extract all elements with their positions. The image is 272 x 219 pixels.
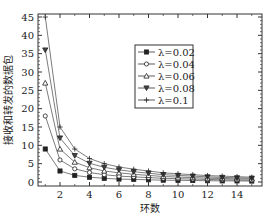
legend-label: λ=0.06 (158, 71, 195, 82)
x-tick-label: 10 (172, 189, 185, 200)
square-marker (58, 169, 62, 173)
triangle-up-marker (43, 80, 48, 85)
legend-label: λ=0.1 (158, 95, 189, 106)
circle-marker (73, 167, 77, 171)
y-tick-label: 40 (21, 30, 34, 41)
circle-marker (87, 170, 91, 174)
legend-label: λ=0.04 (158, 59, 195, 70)
y-tick-label: 0 (28, 177, 34, 188)
legend: λ=0.02λ=0.04λ=0.06λ=0.08λ=0.1 (135, 45, 195, 108)
circle-marker (58, 158, 62, 162)
triangle-down-marker (43, 48, 48, 53)
y-tick-label: 35 (21, 48, 34, 59)
y-tick-label: 10 (21, 140, 34, 151)
y-tick-label: 15 (21, 122, 34, 133)
circle-marker (144, 62, 148, 66)
x-axis-title: 环数 (140, 202, 160, 214)
square-marker (144, 50, 148, 54)
y-axis-title: 接收和转发的数据包 (2, 55, 14, 145)
x-tick-label: 12 (201, 189, 214, 200)
legend-label: λ=0.02 (158, 47, 195, 58)
x-tick-label: 14 (231, 189, 244, 200)
triangle-up-marker (57, 146, 62, 151)
line-chart: 0510152025303540452468101214 λ=0.02λ=0.0… (0, 0, 272, 219)
x-tick-label: 2 (57, 189, 63, 200)
x-tick-label: 6 (116, 189, 122, 200)
square-marker (73, 173, 77, 177)
triangle-down-marker (72, 154, 77, 159)
x-tick-label: 4 (86, 189, 92, 200)
y-tick-label: 20 (21, 103, 34, 114)
square-marker (87, 175, 91, 179)
y-tick-label: 5 (28, 158, 34, 169)
legend-label: λ=0.08 (158, 83, 195, 94)
y-tick-label: 45 (21, 12, 34, 23)
y-tick-label: 30 (21, 67, 34, 78)
square-marker (43, 147, 47, 151)
x-tick-label: 8 (145, 189, 151, 200)
y-tick-label: 25 (21, 85, 34, 96)
circle-marker (43, 114, 47, 118)
